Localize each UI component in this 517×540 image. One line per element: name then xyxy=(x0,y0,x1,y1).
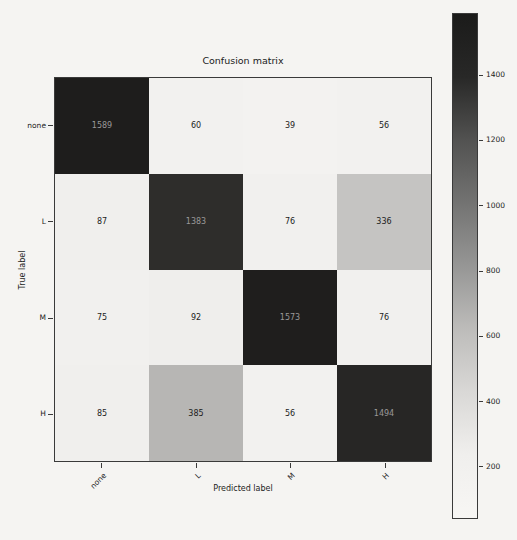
matrix-cell-r3c3: 1494 xyxy=(337,365,431,461)
y-tickmark xyxy=(48,221,53,222)
colorbar xyxy=(452,13,478,519)
matrix-cell-r2c2: 1573 xyxy=(243,270,337,366)
x-tickmark xyxy=(196,463,197,468)
matrix-cell-r0c2: 39 xyxy=(243,78,337,174)
x-tick-label: L xyxy=(193,471,202,480)
confusion-matrix-figure: Confusion matrix True label 158960395687… xyxy=(0,0,517,540)
y-tick-label: M xyxy=(6,313,46,322)
matrix-cell-r0c1: 60 xyxy=(149,78,243,174)
y-axis-label: True label xyxy=(18,251,27,290)
y-tickmark xyxy=(48,318,53,319)
x-tick-label: H xyxy=(381,471,391,481)
colorbar-tick-label: 600 xyxy=(486,331,500,340)
colorbar-tick-label: 800 xyxy=(486,266,500,275)
x-axis-label: Predicted label xyxy=(54,484,432,493)
y-tick-label: none xyxy=(6,121,46,130)
heatmap-cells: 1589603956871383763367592157376853855614… xyxy=(55,78,431,461)
y-tick-label: H xyxy=(6,409,46,418)
colorbar-tickmark xyxy=(479,336,483,337)
matrix-cell-r0c0: 1589 xyxy=(55,78,149,174)
x-tick-label: M xyxy=(286,471,297,482)
x-tickmark xyxy=(385,463,386,468)
x-tickmark xyxy=(290,463,291,468)
colorbar-tickmark xyxy=(479,140,483,141)
colorbar-tickmark xyxy=(479,466,483,467)
matrix-cell-r3c0: 85 xyxy=(55,365,149,461)
y-tickmark xyxy=(48,125,53,126)
colorbar-tickmark xyxy=(479,271,483,272)
matrix-cell-r1c0: 87 xyxy=(55,174,149,270)
matrix-cell-r0c3: 56 xyxy=(337,78,431,174)
colorbar-tickmark xyxy=(479,75,483,76)
y-tick-label: L xyxy=(6,217,46,226)
matrix-cell-r2c3: 76 xyxy=(337,270,431,366)
colorbar-tick-label: 400 xyxy=(486,397,500,406)
matrix-cell-r3c2: 56 xyxy=(243,365,337,461)
y-tickmark xyxy=(48,414,53,415)
colorbar-tickmark xyxy=(479,205,483,206)
matrix-cell-r1c3: 336 xyxy=(337,174,431,270)
matrix-cell-r3c1: 385 xyxy=(149,365,243,461)
colorbar-tickmark xyxy=(479,401,483,402)
matrix-cell-r2c1: 92 xyxy=(149,270,243,366)
chart-title: Confusion matrix xyxy=(54,55,432,66)
colorbar-tick-label: 200 xyxy=(486,462,500,471)
colorbar-tick-label: 1000 xyxy=(486,201,505,210)
colorbar-tick-label: 1400 xyxy=(486,70,505,79)
x-tickmark xyxy=(101,463,102,468)
matrix-cell-r1c2: 76 xyxy=(243,174,337,270)
colorbar-tick-label: 1200 xyxy=(486,135,505,144)
matrix-cell-r1c1: 1383 xyxy=(149,174,243,270)
matrix-cell-r2c0: 75 xyxy=(55,270,149,366)
heatmap-axes: 1589603956871383763367592157376853855614… xyxy=(54,77,432,462)
